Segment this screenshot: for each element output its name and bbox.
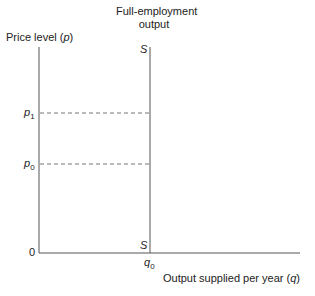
curve-title: Full-employment output — [116, 5, 192, 31]
y-axis-symbol: p — [63, 31, 69, 43]
p1-label: p1 — [24, 106, 35, 123]
origin-label: 0 — [29, 246, 35, 259]
curve-title-line1: Full-employment — [116, 5, 192, 18]
q0-subscript: 0 — [150, 262, 154, 271]
p0-label: p0 — [24, 157, 35, 174]
x-axis-label: Output supplied per year (q) — [163, 272, 300, 285]
p0-subscript: 0 — [30, 163, 34, 172]
diagram-canvas — [0, 0, 315, 296]
curve-title-line2: output — [116, 18, 192, 31]
p1-subscript: 1 — [30, 112, 34, 121]
curve-label-top: S — [140, 43, 147, 56]
curve-label-bottom: S — [140, 239, 147, 252]
y-axis-label-text: Price level — [6, 31, 57, 43]
x-axis-label-text: Output supplied per year — [163, 272, 283, 284]
y-axis-label: Price level (p) — [6, 31, 73, 44]
q0-label: q0 — [144, 256, 155, 273]
x-axis-symbol: q — [290, 272, 296, 284]
